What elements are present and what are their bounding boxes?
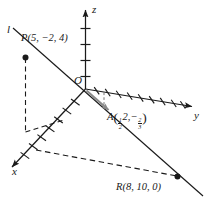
a-minus-sign: − xyxy=(130,111,137,122)
point-marker-r xyxy=(175,174,181,180)
line-label-l: l xyxy=(7,24,10,35)
vector-to-a xyxy=(87,91,109,111)
paren-close: ) xyxy=(142,110,147,125)
axis-label-x: x xyxy=(12,166,17,177)
projection-lines-p xyxy=(26,58,63,132)
point-label-p: P(5, −2, 4) xyxy=(21,33,68,44)
coordinate-system-figure: l z y x O P(5, −2, 4) R(8, 10, 0) A(122,… xyxy=(0,0,207,199)
point-marker-p xyxy=(23,55,29,61)
z-axis xyxy=(81,10,91,89)
point-label-r: R(8, 10, 0) xyxy=(116,182,161,193)
y-axis xyxy=(86,87,193,108)
axis-label-z: z xyxy=(92,4,96,15)
origin-label: O xyxy=(74,75,82,86)
x-axis xyxy=(12,89,86,167)
x-axis-ticks xyxy=(21,99,80,159)
figure-canvas xyxy=(0,0,207,199)
axis-label-y: y xyxy=(194,110,199,121)
point-label-a: A(122,−23) xyxy=(107,111,147,130)
